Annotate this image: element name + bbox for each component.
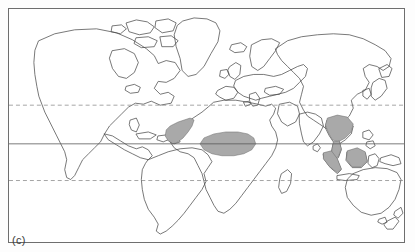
central-america-outline xyxy=(105,134,153,160)
caribbean-islands xyxy=(136,132,156,139)
ireland-outline xyxy=(220,69,229,78)
west-africa-range xyxy=(165,118,194,144)
hudson-bay-outline xyxy=(109,49,138,79)
arctic-island-2 xyxy=(155,19,176,33)
great-lakes-outline xyxy=(125,84,140,93)
scandinavia-outline xyxy=(250,39,280,71)
arctic-island-3 xyxy=(134,37,157,48)
japan-north-outline xyxy=(379,65,392,78)
iceland-outline xyxy=(230,43,247,53)
iberia-outline xyxy=(216,86,238,100)
south-america-outline xyxy=(141,148,212,234)
new-zealand-outline xyxy=(394,207,403,218)
panel-label: (c) xyxy=(12,235,26,246)
philippines-outline xyxy=(363,130,373,140)
korea-outline xyxy=(363,88,371,99)
world-map xyxy=(9,9,404,242)
africa-outline xyxy=(168,100,277,213)
black-sea-outline xyxy=(265,86,284,95)
arabian-peninsula-outline xyxy=(278,102,300,126)
florida-outline xyxy=(129,118,139,132)
madagascar-outline xyxy=(279,170,292,194)
british-isles-outline xyxy=(228,63,241,80)
india-outline xyxy=(300,112,324,146)
north-america-outline xyxy=(34,29,180,180)
arctic-islands-outline xyxy=(126,20,154,35)
indochina-range xyxy=(325,115,353,142)
philippines-outline-2 xyxy=(366,141,375,149)
greenland-outline xyxy=(174,18,220,76)
sulawesi-outline xyxy=(368,154,379,168)
java-outline xyxy=(337,174,359,181)
japan-outline xyxy=(371,78,387,100)
figure-panel: (c) xyxy=(0,0,415,252)
sri-lanka-outline xyxy=(313,144,320,152)
new-guinea-outline xyxy=(380,155,401,166)
new-zealand-south-outline xyxy=(384,217,399,229)
map-frame xyxy=(8,8,405,243)
